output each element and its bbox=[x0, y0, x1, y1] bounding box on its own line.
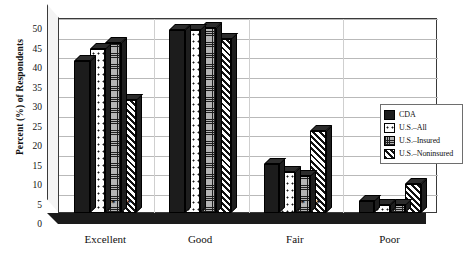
bar-side bbox=[90, 55, 96, 213]
legend-label: U.S.–Insured bbox=[399, 136, 440, 145]
significance-marker: * bbox=[126, 199, 131, 208]
bar-chart: Percent (%) of Respondents 0510152025303… bbox=[0, 0, 466, 260]
bar bbox=[359, 201, 375, 213]
y-tick-label: 45 bbox=[33, 44, 43, 54]
y-tick-label: 5 bbox=[37, 200, 42, 210]
legend-item: U.S.–Insured bbox=[384, 134, 459, 147]
bar bbox=[169, 30, 185, 213]
legend-swatch bbox=[384, 123, 395, 133]
significance-marker: * bbox=[111, 199, 116, 208]
x-tick-label-good: Good bbox=[188, 233, 212, 245]
bar-side bbox=[121, 38, 127, 213]
bar-side bbox=[136, 94, 142, 213]
legend-swatch bbox=[384, 149, 395, 159]
y-tick-label: 50 bbox=[33, 24, 43, 34]
y-tick-label: 40 bbox=[33, 63, 43, 73]
y-tick-label: 30 bbox=[33, 102, 43, 112]
bar-side bbox=[279, 158, 285, 213]
y-tick-label: 10 bbox=[33, 180, 43, 190]
bar-side bbox=[216, 22, 222, 213]
legend-swatch bbox=[384, 136, 395, 146]
y-axis-tick-labels: 05101520253035404550 bbox=[20, 0, 44, 260]
bar bbox=[74, 61, 90, 213]
legend-label: CDA bbox=[399, 110, 416, 119]
legend-label: U.S.–All bbox=[399, 123, 427, 132]
legend: CDAU.S.–AllU.S.–InsuredU.S.–Noninsured bbox=[380, 104, 463, 164]
bar-side bbox=[295, 166, 301, 213]
legend-label: U.S.–Noninsured bbox=[399, 149, 453, 158]
legend-item: CDA bbox=[384, 108, 459, 121]
bar-side bbox=[185, 24, 191, 213]
bar-side bbox=[231, 34, 237, 213]
significance-marker: * bbox=[300, 199, 305, 208]
y-tick-label: 35 bbox=[33, 83, 43, 93]
bar-face bbox=[74, 61, 90, 213]
x-tick-label-poor: Poor bbox=[379, 233, 400, 245]
bar-face bbox=[359, 201, 375, 213]
y-tick-label: 15 bbox=[33, 161, 43, 171]
x-tick-label-excellent: Excellent bbox=[85, 233, 127, 245]
legend-swatch bbox=[384, 110, 395, 120]
bar-face bbox=[264, 164, 280, 213]
legend-item: U.S.–Noninsured bbox=[384, 147, 459, 160]
bar bbox=[264, 164, 280, 213]
bar-side bbox=[200, 24, 206, 213]
bar-side bbox=[326, 125, 332, 213]
y-tick-label: 0 bbox=[37, 219, 42, 229]
y-tick-label: 20 bbox=[33, 141, 43, 151]
bar-side bbox=[105, 43, 111, 213]
bar-side bbox=[310, 170, 316, 213]
bar-side bbox=[421, 178, 427, 213]
y-tick-label: 25 bbox=[33, 122, 43, 132]
legend-item: U.S.–All bbox=[384, 121, 459, 134]
plot-area: **** bbox=[47, 18, 437, 224]
bar-face bbox=[169, 30, 185, 213]
bar-group-container: **** bbox=[47, 18, 437, 224]
significance-marker: * bbox=[316, 199, 321, 208]
x-tick-label-fair: Fair bbox=[286, 233, 304, 245]
